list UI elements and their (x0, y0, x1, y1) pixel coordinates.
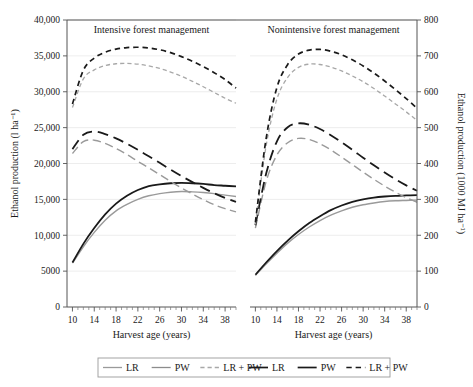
x-axis-title-panel1: Harvest age (years) (295, 329, 373, 341)
y-ticklabel-right-600: 600 (424, 87, 439, 97)
x-ticklabel-18-panel1: 18 (294, 315, 304, 325)
y-ticklabel-left-40000: 40,000 (34, 15, 60, 25)
x-ticklabel-22-panel0: 22 (133, 315, 143, 325)
y-ticklabel-right-400: 400 (424, 159, 439, 169)
x-ticklabel-10-panel0: 10 (68, 315, 78, 325)
panel-title-0: Intensive forest management (94, 24, 210, 35)
series-line-lr-panel0 (72, 191, 236, 263)
y-axis-title-right: Ethanol production (1000 MJ ha⁻¹) (455, 93, 467, 234)
y-ticklabel-left-10000: 10,000 (34, 231, 60, 241)
y-ticklabel-right-300: 300 (424, 195, 439, 205)
y-ticklabel-right-100: 100 (424, 266, 439, 276)
y-ticklabel-left-5000: 5000 (41, 266, 60, 276)
y-ticklabel-left-30000: 30,000 (34, 87, 60, 97)
y-ticklabel-right-200: 200 (424, 231, 439, 241)
y-ticklabel-left-20000: 20,000 (34, 159, 60, 169)
x-ticklabel-34-panel1: 34 (380, 315, 390, 325)
labels-group: 0500010,00015,00020,00025,00030,00035,00… (9, 15, 467, 341)
series-line-lr-pw-panel1 (255, 138, 417, 228)
x-ticklabel-34-panel0: 34 (199, 315, 209, 325)
data-group (72, 47, 417, 275)
y-ticklabel-right-500: 500 (424, 123, 439, 133)
x-ticklabel-26-panel0: 26 (155, 315, 165, 325)
legend-label-5: LR + PW (369, 362, 408, 373)
y-ticklabel-left-15000: 15,000 (34, 195, 60, 205)
x-ticklabel-14-panel0: 14 (90, 315, 100, 325)
series-line-pw-dash-panel1 (255, 123, 417, 225)
x-ticklabel-18-panel0: 18 (111, 315, 121, 325)
x-ticklabel-10-panel1: 10 (251, 315, 261, 325)
y-ticklabel-right-700: 700 (424, 51, 439, 61)
series-line-lr-pw-gray-panel0 (72, 63, 236, 107)
x-ticklabel-26-panel1: 26 (337, 315, 347, 325)
y-axis-title-left: Ethanol production (l ha⁻¹) (9, 109, 21, 218)
y-ticklabel-right-0: 0 (424, 302, 429, 312)
legend-label-3: LR (272, 362, 285, 373)
series-line-lr-pw-panel0 (72, 140, 236, 212)
chart-figure: 0500010,00015,00020,00025,00030,00035,00… (0, 0, 473, 387)
legend-label-0: LR (126, 362, 139, 373)
y-ticklabel-left-35000: 35,000 (34, 51, 60, 61)
x-axis-title-panel0: Harvest age (years) (113, 329, 191, 341)
y-ticklabel-right-800: 800 (424, 15, 439, 25)
legend-group: LRPWLR + PWLRPWLR + PW (98, 358, 408, 377)
x-ticklabel-38-panel1: 38 (401, 315, 411, 325)
x-ticklabel-22-panel1: 22 (315, 315, 325, 325)
panel-title-1: Nonintensive forest management (267, 24, 399, 35)
x-ticklabel-30-panel0: 30 (177, 315, 187, 325)
ethanol-production-chart: 0500010,00015,00020,00025,00030,00035,00… (0, 0, 473, 387)
x-ticklabel-30-panel1: 30 (358, 315, 368, 325)
x-ticklabel-14-panel1: 14 (272, 315, 282, 325)
series-line-lr-panel1 (255, 200, 417, 275)
series-line-pw-dash-panel0 (72, 132, 236, 202)
gridlines-group (67, 20, 417, 271)
x-ticklabel-38-panel0: 38 (220, 315, 230, 325)
y-ticklabel-left-0: 0 (55, 302, 60, 312)
y-ticklabel-left-25000: 25,000 (34, 123, 60, 133)
legend-label-1: PW (175, 362, 191, 373)
legend-label-4: PW (321, 362, 337, 373)
